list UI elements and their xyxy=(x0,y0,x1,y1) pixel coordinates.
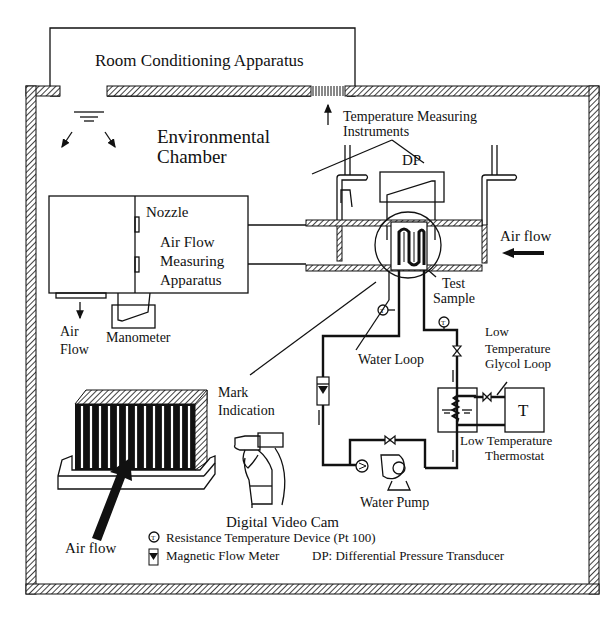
svg-text:T: T xyxy=(151,534,156,542)
manometer-label: Manometer xyxy=(106,330,171,345)
svg-text:T: T xyxy=(441,319,446,327)
water-pump-label: Water Pump xyxy=(360,495,429,510)
glycol-valve-icon xyxy=(483,393,491,401)
dp-label: DP xyxy=(402,152,421,168)
water-loop-label: Water Loop xyxy=(358,352,424,367)
legend-dp: DP: Differential Pressure Transducer xyxy=(312,548,505,563)
thermostat-T-label: T xyxy=(518,401,529,420)
air-label-1: Air xyxy=(60,324,79,339)
test-sample-label-2: Sample xyxy=(433,291,475,306)
video-camera-operator-icon xyxy=(235,433,285,508)
temp-instruments-label-2: Instruments xyxy=(343,124,409,139)
ltt-label-2: Thermostat xyxy=(485,448,545,463)
air-flow-right-label: Air flow xyxy=(500,228,551,244)
afma-label-1: Air Flow xyxy=(160,234,215,250)
air-label-2: Flow xyxy=(60,342,90,357)
legend: T Resistance Temperature Device (Pt 100)… xyxy=(149,530,505,565)
room-conditioning-label: Room Conditioning Apparatus xyxy=(95,51,304,70)
heat-exchanger-bath xyxy=(438,388,505,432)
svg-text:T: T xyxy=(380,307,385,315)
temperature-probe-left-icon xyxy=(337,145,368,261)
legend-rtd: Resistance Temperature Device (Pt 100) xyxy=(166,530,376,545)
mark-label-2: Indication xyxy=(218,403,275,418)
ltt-label-1: Low Temperature xyxy=(460,433,553,448)
glycol-label-2: Temperature xyxy=(485,341,551,356)
temp-instruments-label-1: Temperature Measuring xyxy=(343,109,477,124)
loop-valve-icon xyxy=(453,346,461,356)
glycol-label-3: Glycol Loop xyxy=(485,356,551,371)
mark-label-1: Mark xyxy=(218,385,248,400)
environmental-label-2: Chamber xyxy=(157,146,227,167)
air-flow-right-arrowhead-icon xyxy=(502,248,514,258)
afma-label-3: Apparatus xyxy=(160,272,222,288)
test-sample-label-1: Test xyxy=(442,276,465,291)
legend-flow-meter: Magnetic Flow Meter xyxy=(166,548,280,563)
nozzle-label: Nozzle xyxy=(146,204,189,220)
air-flow-bottom-label: Air flow xyxy=(65,540,116,556)
temp-pointer-left xyxy=(312,140,392,174)
apparatus-diagram: Room Conditioning Apparatus Environmenta… xyxy=(0,0,606,618)
test-duct xyxy=(248,212,482,278)
rtd-sensor-left: T xyxy=(378,305,395,315)
camera-label: Digital Video Cam xyxy=(226,514,339,530)
manometer-icon: Manometer xyxy=(106,293,171,345)
temperature-probe-right-icon xyxy=(482,145,517,263)
glycol-label-1: Low xyxy=(485,324,509,339)
magnetic-flow-meter-icon xyxy=(317,377,329,405)
low-temperature-thermostat: T xyxy=(505,388,544,432)
afma-label-2: Measuring xyxy=(160,253,225,269)
test-sample-perspective-icon xyxy=(58,390,215,541)
supply-diffuser-icon xyxy=(62,112,115,147)
bypass-valve-icon xyxy=(385,436,395,444)
rtd-sensor-right: T xyxy=(439,317,449,330)
environmental-label-1: Environmental xyxy=(157,126,270,147)
water-pump-icon: Water Pump xyxy=(356,455,429,510)
